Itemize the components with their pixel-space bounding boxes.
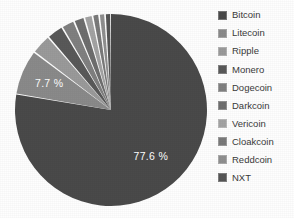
legend-swatch-icon: [218, 11, 227, 20]
legend-item[interactable]: NXT: [218, 169, 294, 187]
legend-swatch-icon: [218, 155, 227, 164]
legend-item-label: Litecoin: [232, 28, 265, 38]
legend-item-label: Cloakcoin: [232, 137, 274, 147]
pie-slice-group: [15, 14, 207, 206]
legend-swatch-icon: [218, 47, 227, 56]
legend-swatch-icon: [218, 137, 227, 146]
legend-item-label: Vericoin: [232, 119, 266, 129]
legend-item[interactable]: Litecoin: [218, 24, 294, 42]
legend-swatch-icon: [218, 119, 227, 128]
legend-item[interactable]: Vericoin: [218, 115, 294, 133]
pie-slice-value-label: 7.7 %: [35, 77, 63, 89]
legend-item-label: NXT: [232, 173, 251, 183]
legend-item[interactable]: Darkcoin: [218, 96, 294, 114]
legend-item-label: Dogecoin: [232, 83, 272, 93]
legend-swatch-icon: [218, 83, 227, 92]
legend-swatch-icon: [218, 29, 227, 38]
chart-legend: BitcoinLitecoinRippleMoneroDogecoinDarkc…: [218, 6, 294, 187]
legend-item[interactable]: Monero: [218, 60, 294, 78]
legend-item-label: Monero: [232, 65, 264, 75]
legend-item[interactable]: Cloakcoin: [218, 133, 294, 151]
legend-item-label: Bitcoin: [232, 10, 261, 20]
legend-item-label: Ripple: [232, 46, 259, 56]
legend-swatch-icon: [218, 173, 227, 182]
pie-chart-plot-area: 77.6 %7.7 %: [0, 0, 214, 218]
legend-swatch-icon: [218, 101, 227, 110]
legend-item[interactable]: Reddcoin: [218, 151, 294, 169]
pie-chart-figure: 77.6 %7.7 % BitcoinLitecoinRippleMoneroD…: [0, 0, 294, 218]
legend-item[interactable]: Ripple: [218, 42, 294, 60]
pie-chart-svg: 77.6 %7.7 %: [0, 0, 214, 218]
legend-item[interactable]: Bitcoin: [218, 6, 294, 24]
legend-item[interactable]: Dogecoin: [218, 78, 294, 96]
legend-swatch-icon: [218, 65, 227, 74]
legend-item-label: Darkcoin: [232, 101, 270, 111]
pie-slice-value-label: 77.6 %: [134, 150, 169, 162]
legend-item-label: Reddcoin: [232, 155, 272, 165]
